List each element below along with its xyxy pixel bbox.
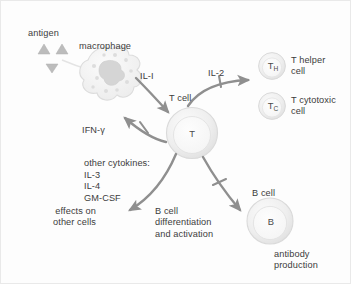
il2-arrow <box>188 76 248 106</box>
ifn-gamma-arrow <box>125 118 166 142</box>
immune-response-diagram: antigen macrophage IL-I IL-2 IFN-γ T cel… <box>0 0 351 284</box>
b-cell-tag: B <box>261 216 281 227</box>
b-cell-label: B cell <box>252 188 275 199</box>
antibody-production-label: antibody production <box>274 249 318 272</box>
ifn-gamma-label: IFN-γ <box>82 125 105 136</box>
t-helper-tag: TH <box>262 60 284 71</box>
diagram-artwork <box>0 0 351 284</box>
t-helper-cell-label: T helper cell <box>291 55 325 78</box>
other-cytokines-heading: other cytokines: <box>84 158 150 169</box>
antigen-label: antigen <box>28 28 59 39</box>
effects-on-other-cells-label: effects on other cells <box>18 206 96 229</box>
il1-arrow <box>136 78 168 112</box>
il1-label: IL-I <box>140 71 154 82</box>
t-cytotoxic-cell-label: T cytotoxic cell <box>291 95 336 118</box>
t-cytotoxic-tag: TC <box>262 100 284 111</box>
il2-label: IL-2 <box>208 68 224 79</box>
t-cell-label: T cell <box>169 93 191 104</box>
b-cell-differentiation-label: B cell differentiation and activation <box>155 206 213 240</box>
macrophage-cell <box>80 47 141 101</box>
macrophage-label: macrophage <box>79 41 131 52</box>
antigen-triangles-icon <box>38 44 68 73</box>
other-cytokines-list: IL-3 IL-4 GM-CSF <box>84 170 121 204</box>
t-cell-tag: T <box>182 128 202 139</box>
b-cell-differentiation-arrow <box>203 157 240 210</box>
